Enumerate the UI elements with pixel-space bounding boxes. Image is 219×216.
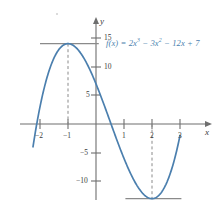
y-axis-label: y — [100, 17, 104, 26]
function-label-tail: − 12x + 7 — [162, 38, 200, 48]
x-tick-label-1: 1 — [122, 132, 126, 140]
x-tick-label-neg2: −2 — [35, 132, 43, 140]
y-tick-label-neg5: −5 — [80, 149, 88, 157]
y-tick-label-5: 5 — [86, 91, 90, 99]
function-label-mid: − 3x — [140, 38, 159, 48]
function-expression-label: f(x) = 2x3 − 3x2 − 12x + 7 — [106, 38, 200, 47]
x-axis-label: x — [205, 128, 209, 137]
x-tick-label-neg1: −1 — [63, 132, 71, 140]
function-label-lead: f(x) = 2x — [106, 38, 137, 48]
y-tick-label-neg10: −10 — [76, 177, 88, 185]
graph-figure: −2 −1 1 2 3 15 10 5 −5 −10 y x f(x) = 2x… — [0, 0, 219, 216]
x-tick-label-2: 2 — [150, 132, 154, 140]
x-tick-label-3: 3 — [178, 132, 182, 140]
y-tick-label-10: 10 — [104, 63, 112, 71]
